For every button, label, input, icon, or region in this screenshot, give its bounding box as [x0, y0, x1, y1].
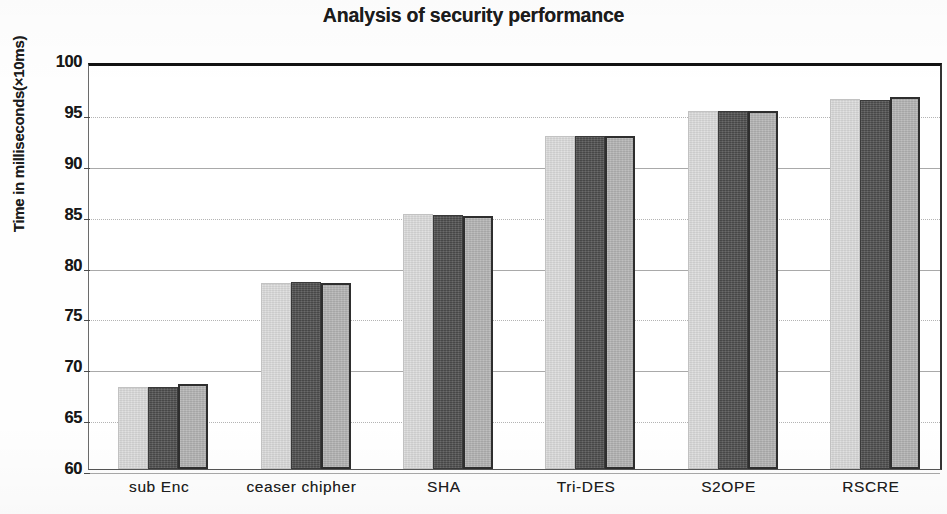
bar-group [688, 66, 778, 469]
x-tick-label: RSCRE [800, 478, 942, 496]
y-tick-label: 60 [36, 459, 82, 478]
y-tick-label: 65 [36, 408, 82, 427]
bar-chart-figure: Analysis of security performance Time in… [0, 0, 947, 514]
bar [463, 216, 493, 469]
gridline [89, 270, 940, 271]
y-tick-label: 100 [36, 52, 82, 71]
x-tick-label: ceaser chipher [230, 478, 372, 496]
x-axis-tick-labels: sub Encceaser chipherSHATri-DESS2OPERSCR… [88, 478, 942, 512]
bar [291, 282, 321, 469]
bar [118, 387, 148, 469]
bar [178, 384, 208, 469]
y-tick-mark [84, 270, 90, 271]
y-tick-label: 95 [36, 103, 82, 122]
bar [830, 99, 860, 469]
y-axis-tick-labels: 1009590858075706560 [26, 0, 82, 514]
bar [860, 100, 890, 469]
y-tick-label: 75 [36, 306, 82, 325]
gridline [89, 473, 940, 474]
y-tick-label: 85 [36, 205, 82, 224]
bar [718, 111, 748, 469]
bar-group [403, 66, 493, 469]
bar [890, 97, 920, 469]
y-tick-mark [84, 371, 90, 372]
bar-group [830, 66, 920, 469]
gridline [89, 371, 940, 372]
bar [261, 283, 291, 469]
bar [748, 111, 778, 469]
y-tick-mark [84, 117, 90, 118]
bar [575, 136, 605, 469]
bar [433, 215, 463, 469]
x-tick-label: S2OPE [657, 478, 799, 496]
gridline [89, 422, 940, 423]
y-tick-label: 90 [36, 154, 82, 173]
x-tick-label: sub Enc [88, 478, 230, 496]
bar [688, 111, 718, 469]
y-tick-mark [84, 168, 90, 169]
bar [321, 283, 351, 469]
y-tick-mark [84, 473, 90, 474]
bar [148, 387, 178, 469]
y-tick-mark [84, 320, 90, 321]
bar-group [261, 66, 351, 469]
gridline [89, 320, 940, 321]
bar [403, 214, 433, 469]
y-tick-mark [84, 422, 90, 423]
gridline [89, 168, 940, 169]
bar-group [118, 66, 208, 469]
y-tick-label: 70 [36, 357, 82, 376]
bar-group [545, 66, 635, 469]
x-tick-label: Tri-DES [515, 478, 657, 496]
y-tick-mark [84, 219, 90, 220]
bar [605, 136, 635, 469]
gridline [89, 117, 940, 118]
gridline [89, 219, 940, 220]
x-tick-label: SHA [373, 478, 515, 496]
y-tick-label: 80 [36, 256, 82, 275]
chart-title: Analysis of security performance [0, 4, 947, 27]
bar [545, 136, 575, 469]
plot-area [88, 63, 942, 470]
